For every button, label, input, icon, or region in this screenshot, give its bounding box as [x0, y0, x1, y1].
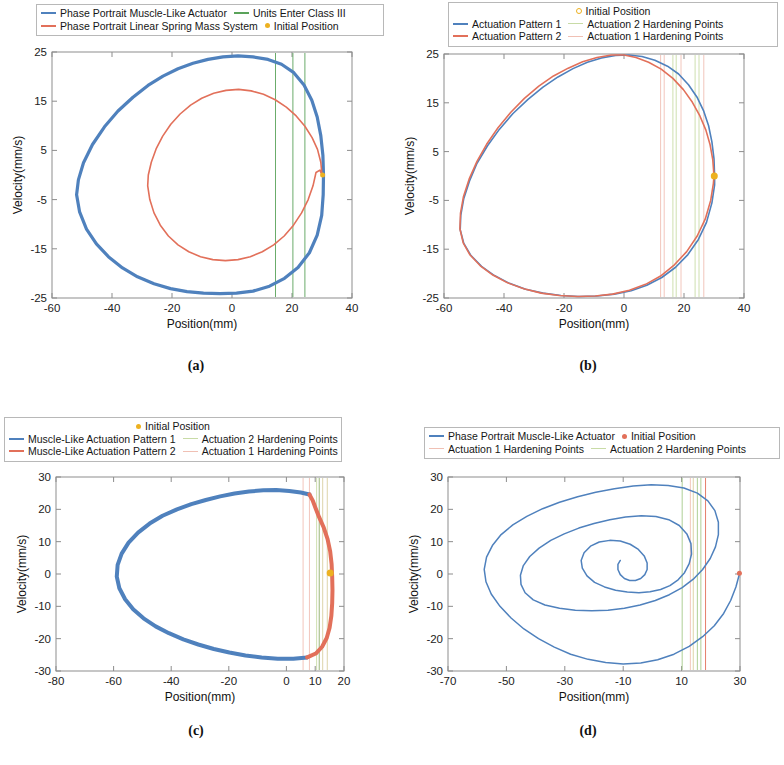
x-tick-label: -20	[220, 675, 237, 687]
line-swatch-icon	[453, 35, 468, 37]
legend-c: Initial Position Muscle-Like Actuation P…	[4, 417, 342, 462]
y-axis-title: Velocity(mm/s)	[15, 535, 29, 614]
x-tick-label: 40	[738, 302, 751, 314]
legend-label: Actuation Pattern 1	[472, 18, 561, 31]
y-tick-label: 5	[433, 146, 439, 158]
x-tick-label: -20	[556, 302, 573, 314]
y-tick-label: -20	[34, 633, 51, 645]
legend-row: Initial Position	[9, 420, 337, 433]
line-swatch-icon	[568, 36, 583, 37]
x-tick-label: 20	[338, 675, 351, 687]
y-tick-label: -20	[426, 633, 443, 645]
legend-label: Muscle-Like Actuation Pattern 2	[28, 445, 176, 458]
y-tick-label: 20	[38, 503, 51, 515]
y-axis-title: Velocity(mm/s)	[407, 535, 421, 614]
y-axis-title: Velocity(mm/s)	[11, 136, 25, 215]
y-tick-label: 15	[34, 95, 47, 107]
x-tick-label: -30	[556, 675, 573, 687]
x-tick-label: 40	[346, 302, 359, 314]
x-axis-title: Position(mm)	[165, 690, 236, 704]
legend-label: Initial Position	[586, 5, 651, 18]
y-tick-label: 5	[41, 144, 47, 156]
legend-label: Actuation 2 Hardening Points	[202, 433, 338, 446]
legend-label: Phase Portrait Muscle-Like Actuator	[448, 430, 615, 443]
legend-label: Actuation 1 Hardening Points	[202, 445, 338, 458]
marker-dot-icon	[622, 434, 627, 439]
legend-entry: Actuation 2 Hardening Points	[591, 443, 746, 456]
line-swatch-icon	[568, 23, 583, 24]
legend-entry: Muscle-Like Actuation Pattern 2	[9, 445, 176, 458]
legend-entry: Actuation 1 Hardening Points	[183, 445, 338, 458]
plot-area-d: -70-50-30-101030-30-20-100102030Position…	[392, 471, 784, 711]
x-tick-label: 0	[283, 675, 289, 687]
legend-entry: Phase Portrait Linear Spring Mass System	[41, 20, 258, 33]
line-swatch-icon	[41, 25, 56, 27]
legend-entry: Actuation Pattern 2	[453, 30, 561, 43]
subfigure-b: Initial Position Actuation Pattern 1 Act…	[392, 0, 784, 382]
initial-position-marker	[320, 173, 325, 178]
plot-frame	[56, 477, 344, 671]
y-axis-title: Velocity(mm/s)	[403, 137, 417, 216]
x-tick-label: 10	[309, 675, 322, 687]
x-tick-label: 20	[286, 302, 299, 314]
legend-b: Initial Position Actuation Pattern 1 Act…	[448, 2, 778, 47]
y-tick-label: -15	[422, 243, 439, 255]
x-tick-label: 0	[621, 302, 627, 314]
y-tick-label: -25	[30, 292, 47, 304]
line-swatch-icon	[183, 438, 198, 439]
legend-entry: Phase Portrait Muscle-Like Actuator	[41, 7, 227, 20]
plot-area-c: -80-60-40-2001020-30-20-100102030Positio…	[0, 471, 392, 711]
legend-label: Phase Portrait Linear Spring Mass System	[60, 20, 258, 33]
legend-row: Muscle-Like Actuation Pattern 1 Actuatio…	[9, 433, 337, 446]
legend-row: Actuation 1 Hardening Points Actuation 2…	[429, 443, 775, 456]
line-swatch-icon	[591, 448, 606, 449]
legend-entry: Actuation 1 Hardening Points	[429, 443, 584, 456]
legend-entry: Units Enter Class III	[234, 7, 346, 20]
legend-label: Initial Position	[631, 430, 696, 443]
y-tick-label: -5	[37, 194, 47, 206]
legend-label: Actuation 1 Hardening Points	[587, 30, 723, 43]
y-tick-label: -10	[34, 600, 51, 612]
x-tick-label: 0	[229, 302, 235, 314]
x-tick-label: -50	[498, 675, 515, 687]
legend-entry: Actuation Pattern 1	[453, 18, 561, 31]
legend-entry: Initial Position	[622, 430, 696, 443]
y-tick-label: 15	[426, 97, 439, 109]
x-tick-label: -10	[615, 675, 632, 687]
legend-d: Phase Portrait Muscle-Like Actuator Init…	[424, 427, 780, 459]
subfigure-caption-d: (d)	[392, 723, 784, 739]
plot-area-a: -60-40-2002040-25-15-551525Position(mm)V…	[0, 44, 392, 344]
y-tick-label: 0	[437, 568, 443, 580]
y-tick-label: -15	[30, 243, 47, 255]
marker-dot-icon	[265, 23, 270, 28]
legend-entry: Initial Position	[136, 420, 210, 433]
line-swatch-icon	[453, 23, 468, 25]
initial-position-marker	[327, 570, 334, 577]
legend-label: Actuation 2 Hardening Points	[610, 443, 746, 456]
line-swatch-icon	[429, 448, 444, 449]
legend-entry: Muscle-Like Actuation Pattern 1	[9, 433, 176, 446]
initial-position-marker	[737, 571, 742, 576]
legend-row: Phase Portrait Muscle-Like Actuator Init…	[429, 430, 775, 443]
legend-row: Phase Portrait Muscle-Like Actuator Unit…	[41, 7, 379, 20]
x-tick-label: -40	[496, 302, 513, 314]
line-swatch-icon	[429, 435, 444, 437]
subfigure-c: Initial Position Muscle-Like Actuation P…	[0, 383, 392, 765]
x-tick-label: 20	[678, 302, 691, 314]
legend-entry: Phase Portrait Muscle-Like Actuator	[429, 430, 615, 443]
line-swatch-icon	[9, 438, 24, 440]
legend-entry: Actuation 2 Hardening Points	[568, 18, 723, 31]
x-axis-title: Position(mm)	[167, 317, 238, 331]
x-tick-label: 30	[734, 675, 747, 687]
line-swatch-icon	[183, 451, 198, 452]
y-tick-label: -25	[422, 292, 439, 304]
y-tick-label: -5	[429, 194, 439, 206]
line-swatch-icon	[41, 12, 56, 14]
legend-row: Initial Position	[453, 5, 773, 18]
y-tick-label: 25	[426, 48, 439, 60]
line-swatch-icon	[9, 450, 24, 452]
y-tick-label: 20	[430, 503, 443, 515]
x-tick-label: 10	[675, 675, 688, 687]
x-tick-label: -60	[105, 675, 122, 687]
legend-label: Actuation 1 Hardening Points	[448, 443, 584, 456]
